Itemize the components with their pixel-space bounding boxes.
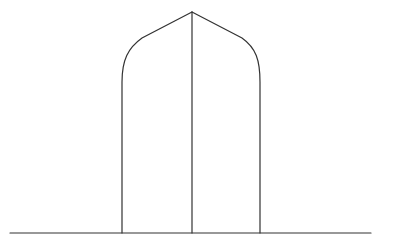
right-arch-curve bbox=[192, 12, 260, 233]
left-arch-curve bbox=[122, 12, 192, 233]
arch-diagram bbox=[0, 0, 394, 238]
